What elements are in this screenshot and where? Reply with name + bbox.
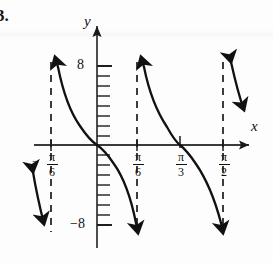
numerator: π: [125, 151, 151, 163]
numerator: π: [39, 151, 65, 163]
minus-sign: −: [32, 155, 39, 167]
y-tick-label-8: 8: [77, 57, 84, 73]
denominator: 3: [168, 166, 194, 178]
y-tick-label-neg8: −8: [70, 216, 85, 232]
branch-partial-left-path: [33, 172, 44, 224]
x-tick-label-pi-3: π 3: [168, 151, 194, 178]
denominator: 6: [125, 166, 151, 178]
branch-partial-right-path: [231, 62, 244, 110]
branch-2-upper-arrow: [141, 57, 144, 67]
figure-container: 3.: [0, 0, 273, 263]
asymptotes-group: [51, 62, 223, 232]
numerator: π: [211, 151, 237, 163]
branch-1-upper-arrow: [55, 57, 58, 67]
x-tick-label-pi-6: π 6: [125, 151, 151, 178]
y-axis-label: y: [84, 13, 91, 30]
x-axis-label: x: [251, 118, 258, 135]
cotangent-graph: [0, 0, 273, 263]
denominator: 2: [211, 166, 237, 178]
curve-branch-partial-right: [231, 62, 244, 110]
curve-branch-partial-left: [33, 172, 44, 224]
x-tick-label-neg-pi-6: − π 6: [39, 151, 65, 178]
numerator: π: [168, 151, 194, 163]
x-tick-label-pi-2: π 2: [211, 151, 237, 178]
denominator: 6: [39, 166, 65, 178]
